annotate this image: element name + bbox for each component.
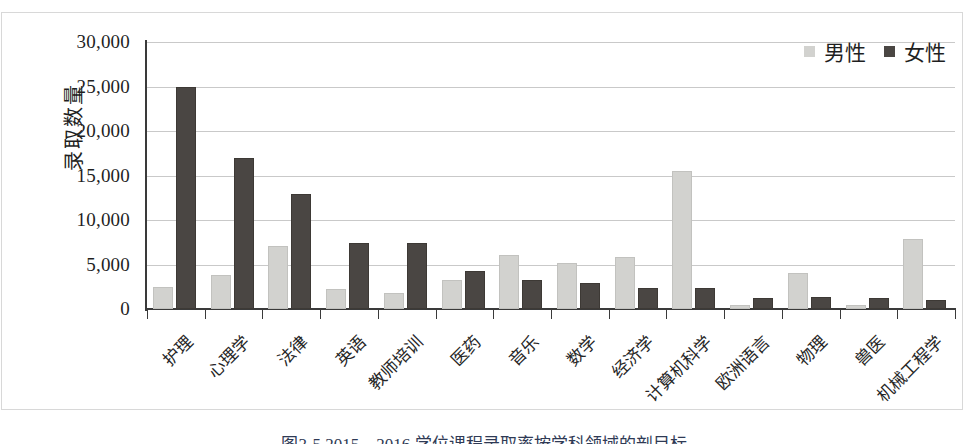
bar-group xyxy=(724,42,782,309)
bar-group xyxy=(436,42,494,309)
bar-female[interactable] xyxy=(407,243,427,309)
chart-legend: 男性 女性 xyxy=(804,36,946,66)
bar-male[interactable] xyxy=(672,171,692,309)
bar-female[interactable] xyxy=(349,243,369,309)
bar-male[interactable] xyxy=(788,273,808,309)
x-tick-mark xyxy=(897,310,898,319)
legend-label-female: 女性 xyxy=(904,36,946,66)
bar-female[interactable] xyxy=(869,298,889,309)
bar-group xyxy=(666,42,724,309)
bar-group xyxy=(782,42,840,309)
x-tick-mark xyxy=(782,310,783,319)
bar-group xyxy=(493,42,551,309)
legend-label-male: 男性 xyxy=(824,36,866,66)
bar-female[interactable] xyxy=(176,87,196,310)
bar-female[interactable] xyxy=(465,271,485,309)
bar-group xyxy=(609,42,667,309)
y-tick-label: 15,000 xyxy=(40,166,130,185)
y-tick-label: 25,000 xyxy=(40,77,130,96)
bar-chart: 录取数量 30,00025,00020,00015,00010,0005,000… xyxy=(0,0,968,444)
bar-female[interactable] xyxy=(291,194,311,309)
bar-male[interactable] xyxy=(846,305,866,309)
x-tick-mark xyxy=(840,310,841,319)
legend-swatch-female-icon xyxy=(884,46,895,57)
bar-male[interactable] xyxy=(557,263,577,309)
bar-female[interactable] xyxy=(522,280,542,309)
bar-group xyxy=(551,42,609,309)
x-tick-mark xyxy=(609,310,610,319)
bar-female[interactable] xyxy=(811,297,831,309)
bar-male[interactable] xyxy=(211,275,231,309)
figure-caption: 图3-5 2015—2016 学位课程录取率按学科领域的剖目标 xyxy=(0,430,968,444)
bar-female[interactable] xyxy=(234,158,254,309)
x-tick-mark xyxy=(551,310,552,319)
bar-male[interactable] xyxy=(384,293,404,309)
legend-swatch-male-icon xyxy=(804,46,815,57)
y-tick-label: 10,000 xyxy=(40,210,130,229)
legend-item-male[interactable]: 男性 xyxy=(804,36,866,66)
bar-group xyxy=(205,42,263,309)
x-tick-mark xyxy=(205,310,206,319)
bar-male[interactable] xyxy=(326,289,346,309)
bar-group xyxy=(262,42,320,309)
bar-female[interactable] xyxy=(753,298,773,309)
bar-male[interactable] xyxy=(268,246,288,309)
y-tick-label: 0 xyxy=(40,299,130,318)
bar-male[interactable] xyxy=(615,257,635,310)
x-tick-mark xyxy=(436,310,437,319)
bar-female[interactable] xyxy=(926,300,946,309)
y-tick-label: 5,000 xyxy=(40,255,130,274)
x-tick-mark xyxy=(262,310,263,319)
x-tick-mark xyxy=(147,310,148,319)
x-tick-mark xyxy=(666,310,667,319)
bar-female[interactable] xyxy=(638,288,658,309)
bar-group xyxy=(840,42,898,309)
bar-male[interactable] xyxy=(499,255,519,309)
x-tick-mark xyxy=(320,310,321,319)
x-tick-mark xyxy=(955,310,956,319)
bar-group xyxy=(147,42,205,309)
bar-group xyxy=(378,42,436,309)
bar-male[interactable] xyxy=(730,305,750,309)
bar-group xyxy=(320,42,378,309)
bar-group xyxy=(897,42,955,309)
y-tick-label: 20,000 xyxy=(40,121,130,140)
bar-male[interactable] xyxy=(903,239,923,309)
legend-item-female[interactable]: 女性 xyxy=(884,36,946,66)
bar-female[interactable] xyxy=(695,288,715,309)
plot-area xyxy=(147,42,955,309)
x-tick-mark xyxy=(378,310,379,319)
x-tick-mark xyxy=(493,310,494,319)
x-tick-mark xyxy=(724,310,725,319)
bar-male[interactable] xyxy=(442,280,462,309)
bar-female[interactable] xyxy=(580,283,600,309)
bar-male[interactable] xyxy=(153,287,173,309)
y-tick-label: 30,000 xyxy=(40,32,130,51)
